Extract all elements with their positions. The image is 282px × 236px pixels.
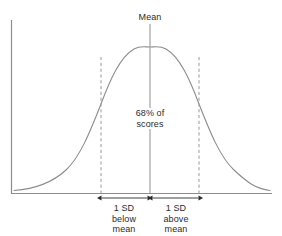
sd-below-mean-label: 1 SD below mean [112, 203, 136, 235]
sd-above-line1: 1 SD [163, 203, 188, 214]
mean-label-text: Mean [139, 12, 162, 23]
sd-below-line3: mean [112, 224, 136, 235]
sd-above-line2: above [163, 214, 188, 225]
sd-below-line1: 1 SD [112, 203, 136, 214]
sd-above-mean-label: 1 SD above mean [163, 203, 188, 235]
sd-above-line3: mean [163, 224, 188, 235]
mean-label: Mean [139, 12, 162, 23]
percent-of-scores-label: 68% of scores [134, 108, 167, 129]
percent-label-line1: 68% of [136, 108, 165, 119]
sd-below-line2: below [112, 214, 136, 225]
normal-distribution-figure: Mean 68% of scores 1 SD below mean 1 SD … [0, 0, 282, 236]
percent-label-line2: scores [136, 119, 165, 130]
